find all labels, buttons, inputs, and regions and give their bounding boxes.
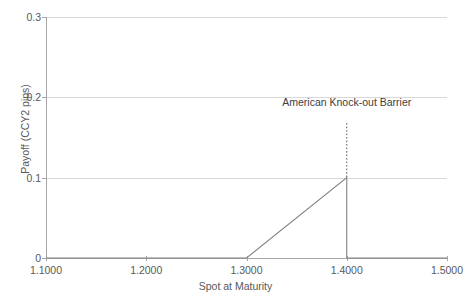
x-axis-tick-label: 1.2000 [130, 264, 162, 276]
plot-area [46, 17, 447, 258]
x-axis-tick-label: 1.4000 [331, 264, 363, 276]
y-axis-title: Payoff (CCY2 pips) [19, 54, 31, 204]
series-layer [46, 17, 447, 258]
y-axis-tick [42, 258, 46, 259]
payoff-series-line [46, 178, 447, 258]
x-axis-tick-label: 1.3000 [230, 264, 262, 276]
x-axis-tick [447, 256, 448, 261]
y-axis-title-wrapper: Payoff (CCY2 pips) [12, 0, 28, 258]
x-axis-tick-label: 1.5000 [431, 264, 463, 276]
x-axis-tick-label: 1.1000 [30, 264, 62, 276]
x-axis-title: Spot at Maturity [0, 280, 471, 292]
payoff-chart: 00.10.20.3 Payoff (CCY2 pips) Spot at Ma… [0, 0, 471, 302]
knock-out-barrier-label: American Knock-out Barrier [282, 96, 411, 108]
